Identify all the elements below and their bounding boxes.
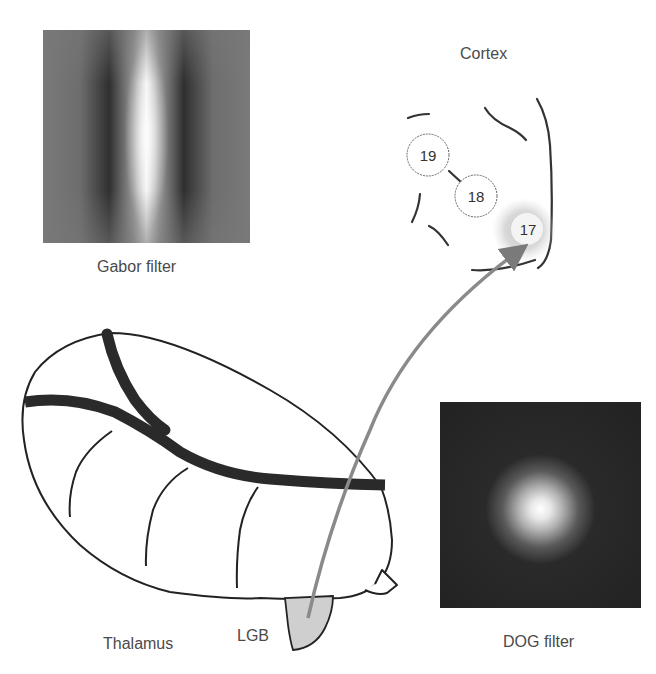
area-17: 17	[511, 213, 543, 245]
thalamus-outline	[22, 333, 397, 599]
diagram-canvas: 19 18 17	[0, 0, 656, 674]
lgb-region	[285, 596, 333, 650]
area-19: 19	[407, 134, 449, 176]
svg-text:19: 19	[420, 147, 437, 164]
svg-text:17: 17	[520, 221, 537, 238]
svg-text:18: 18	[468, 188, 485, 205]
area-18: 18	[455, 175, 497, 217]
